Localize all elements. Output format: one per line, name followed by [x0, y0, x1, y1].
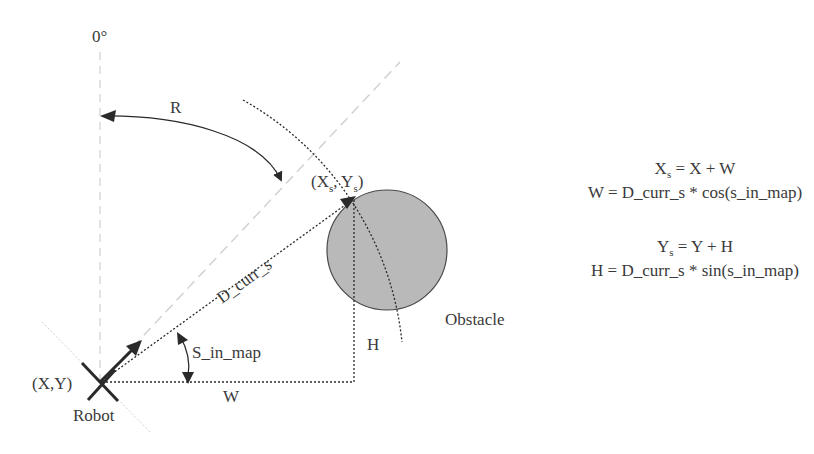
zero-degree-label: 0° — [92, 27, 107, 46]
robot-position-label: (X,Y) — [32, 374, 72, 393]
rotation-arc-start-arrow-icon — [100, 110, 116, 122]
rotation-label-R: R — [170, 98, 182, 117]
formula-ys: Ys = Y + H — [580, 236, 810, 258]
robot-label: Robot — [73, 406, 115, 425]
obstacle-circle — [327, 190, 447, 310]
rotation-arc-R — [102, 116, 281, 180]
formula-w: W = D_curr_s * cos(s_in_map) — [578, 182, 812, 204]
formula-h: H = D_curr_s * sin(s_in_map) — [578, 260, 812, 282]
diagram-canvas: 0° R (Xs, Ys) D_curr_s S_in_map (X,Y) Ro… — [0, 0, 814, 454]
sensor-point-label: (Xs, Ys) — [311, 172, 363, 194]
robot-heading-arrow — [100, 346, 136, 382]
height-label-H: H — [367, 335, 379, 354]
angle-label: S_in_map — [192, 343, 261, 362]
formula-xs: Xs = X + W — [580, 158, 810, 180]
obstacle-label: Obstacle — [445, 310, 504, 329]
distance-label: D_curr_s — [213, 255, 275, 308]
angle-arc-top-arrow-icon — [177, 332, 188, 345]
width-label-W: W — [223, 387, 240, 406]
